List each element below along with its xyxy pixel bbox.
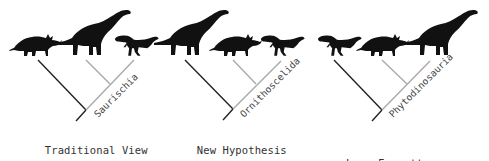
sauropod-silhouette-icon — [56, 10, 131, 55]
panel-long-forgotten-hypothesis: Phytodinosauria — [318, 10, 478, 121]
caption-new-hypothesis: New Hypothesis — [184, 131, 287, 157]
caption-line: Traditional View — [45, 144, 148, 156]
outgroup-branch — [185, 60, 233, 109]
theropod-silhouette-icon — [318, 35, 362, 55]
inner-branch — [382, 60, 407, 84]
outgroup-branch — [334, 60, 382, 110]
ceratopsian-silhouette-icon — [356, 34, 409, 56]
root-stem — [372, 110, 382, 121]
outgroup-branch — [38, 60, 86, 110]
clade-label-phytodinosauria: Phytodinosauria — [387, 51, 455, 119]
panel-new-hypothesis: Ornithoscelida — [154, 10, 305, 120]
caption-traditional-view: Traditional View — [32, 131, 148, 157]
theropod-silhouette-icon — [261, 35, 305, 55]
inner-branch — [86, 60, 110, 84]
ceratopsian-silhouette-icon — [209, 34, 262, 56]
root-stem — [223, 109, 233, 120]
sauropod-silhouette-icon — [403, 10, 478, 55]
theropod-silhouette-icon — [115, 35, 159, 55]
caption-line: New Hypothesis — [197, 144, 287, 156]
root-stem — [76, 110, 86, 121]
panel-traditional-view: Saurischia — [9, 10, 159, 121]
ceratopsian-silhouette-icon — [9, 34, 62, 56]
inner-branch — [233, 60, 256, 84]
caption-line: Long-Forgotten — [346, 157, 436, 161]
caption-long-forgotten-hypothesis: Long-Forgotten Hypothesis — [346, 131, 436, 161]
clade-label-ornithoscelida: Ornithoscelida — [238, 55, 302, 119]
